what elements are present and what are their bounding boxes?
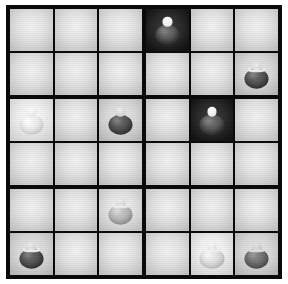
cell-r2c4[interactable] (146, 53, 189, 95)
cell-r2c6[interactable] (235, 53, 278, 95)
ball-neck (207, 107, 217, 116)
cell-r4c2[interactable] (55, 143, 98, 185)
cell-r6c1[interactable] (10, 233, 53, 275)
cell-r5c1[interactable] (10, 189, 53, 231)
cell-r5c5[interactable] (191, 189, 234, 231)
ball-icon-darkcell-ball-bow (242, 241, 271, 270)
ball-icon-white-ball (17, 107, 46, 136)
cell-r3c5[interactable] (191, 99, 234, 141)
cell-r1c4[interactable] (146, 9, 189, 51)
cell-r2c1[interactable] (10, 53, 53, 95)
cell-r4c4[interactable] (146, 143, 189, 185)
cell-r1c5[interactable] (191, 9, 234, 51)
block-6 (146, 189, 278, 275)
block-3 (10, 99, 142, 185)
cell-r6c4[interactable] (146, 233, 189, 275)
block-4 (146, 99, 278, 185)
cell-r4c5[interactable] (191, 143, 234, 185)
cell-r3c6[interactable] (235, 99, 278, 141)
ball-icon-dark-ball-bow (17, 241, 46, 270)
ball-highlight (249, 251, 257, 257)
cell-r4c3[interactable] (99, 143, 142, 185)
ball-highlight (249, 71, 257, 77)
block-1 (10, 9, 142, 95)
ball-icon-dark-ball (106, 107, 135, 136)
block-2 (146, 9, 278, 95)
cell-r1c6[interactable] (235, 9, 278, 51)
ball-highlight (113, 117, 121, 123)
cell-r5c4[interactable] (146, 189, 189, 231)
block-5 (10, 189, 142, 275)
cell-r5c6[interactable] (235, 189, 278, 231)
grid-frame (6, 5, 282, 279)
cell-r3c1[interactable] (10, 99, 53, 141)
cell-r1c3[interactable] (99, 9, 142, 51)
ball-highlight (113, 207, 121, 213)
cell-r3c4[interactable] (146, 99, 189, 141)
ball-highlight (23, 251, 31, 257)
ball-highlight (23, 117, 31, 123)
puzzle-board (0, 0, 288, 284)
ball-icon-white-ball-bow (197, 241, 226, 270)
cell-r5c3[interactable] (99, 189, 142, 231)
cell-r6c6[interactable] (235, 233, 278, 275)
cell-r2c3[interactable] (99, 53, 142, 95)
cell-r5c2[interactable] (55, 189, 98, 231)
ball-neck (162, 17, 172, 26)
cell-r2c5[interactable] (191, 53, 234, 95)
cell-r2c2[interactable] (55, 53, 98, 95)
cell-r6c5[interactable] (191, 233, 234, 275)
cell-r1c2[interactable] (55, 9, 98, 51)
cell-r6c2[interactable] (55, 233, 98, 275)
ball-highlight (159, 27, 167, 33)
cell-r3c3[interactable] (99, 99, 142, 141)
cell-r6c3[interactable] (99, 233, 142, 275)
ball-neck (26, 107, 36, 116)
ball-icon-bright-ball (197, 107, 226, 136)
ball-highlight (204, 251, 212, 257)
ball-neck (116, 107, 126, 116)
cell-r4c6[interactable] (235, 143, 278, 185)
cell-r4c1[interactable] (10, 143, 53, 185)
cell-r1c1[interactable] (10, 9, 53, 51)
ball-highlight (204, 117, 212, 123)
ball-icon-bright-ball (153, 17, 182, 46)
ball-icon-dark-ball-bow (242, 61, 271, 90)
cell-r3c2[interactable] (55, 99, 98, 141)
ball-icon-grey-ball-bow (106, 197, 135, 226)
